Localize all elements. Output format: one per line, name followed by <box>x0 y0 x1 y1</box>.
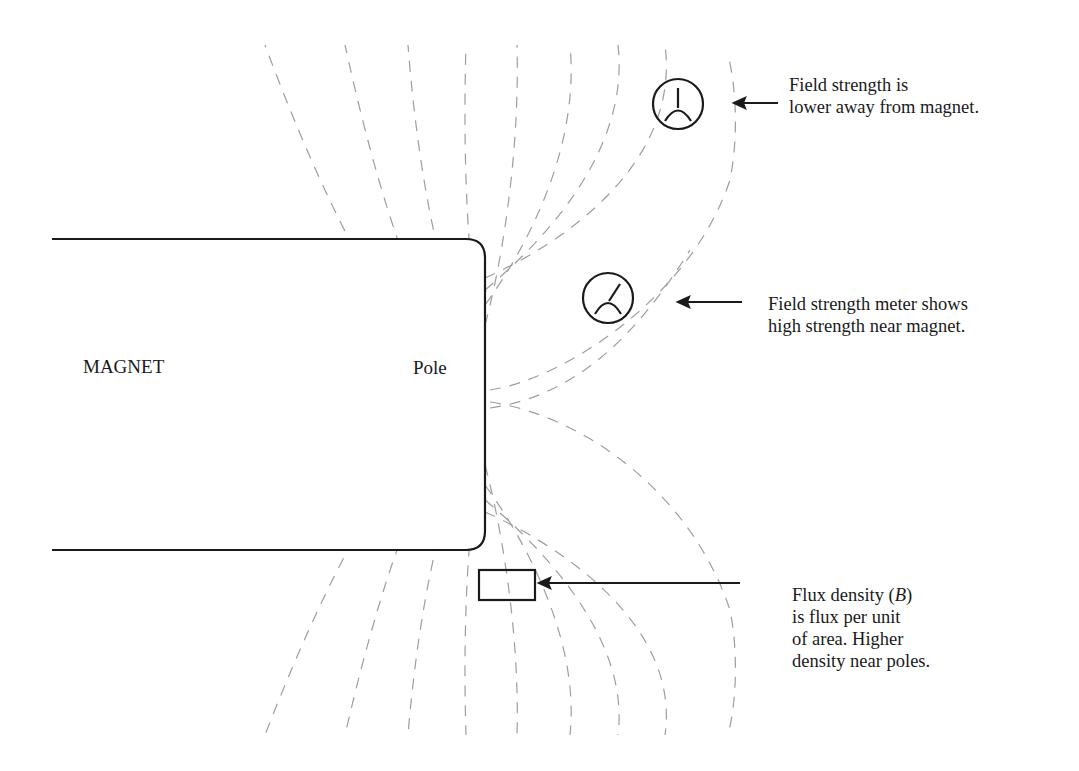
arrow-icon <box>678 297 742 307</box>
field-line-lower-7 <box>485 500 619 735</box>
flux-area-box <box>479 570 535 600</box>
arrow-icon <box>734 98 778 108</box>
pole-label: Pole <box>413 357 447 379</box>
field-strength-meter-far <box>653 79 703 129</box>
field-line-upper-8 <box>485 45 666 278</box>
callout-flux-density: Flux density (B) is flux per unit of are… <box>792 584 930 672</box>
field-line-upper-9 <box>490 55 735 390</box>
field-line-upper-5 <box>485 45 517 325</box>
callout-line: density near poles. <box>792 650 930 672</box>
callout-line: is flux per unit <box>792 606 930 628</box>
callout-field-strength-near: Field strength meter shows high strength… <box>768 293 968 337</box>
callout-line: of area. Higher <box>792 628 930 650</box>
field-line-upper-7 <box>485 45 619 290</box>
field-line-upper-10 <box>490 250 690 408</box>
field-strength-meter-near <box>583 273 633 323</box>
callout-line: high strength near magnet. <box>768 315 968 337</box>
magnet-label: MAGNET <box>83 356 164 378</box>
callout-line: lower away from magnet. <box>789 96 979 118</box>
callout-field-strength-far: Field strength is lower away from magnet… <box>789 74 979 118</box>
callout-line-flux-title: Flux density (B) <box>792 584 930 606</box>
callout-line: Field strength meter shows <box>768 293 968 315</box>
magnet-body <box>52 239 485 550</box>
field-line-lower-9 <box>490 402 735 735</box>
flux-density-symbol: B <box>895 585 906 605</box>
callout-line: Field strength is <box>789 74 979 96</box>
field-line-lower-6 <box>485 485 571 735</box>
callout-arrows <box>539 98 778 588</box>
